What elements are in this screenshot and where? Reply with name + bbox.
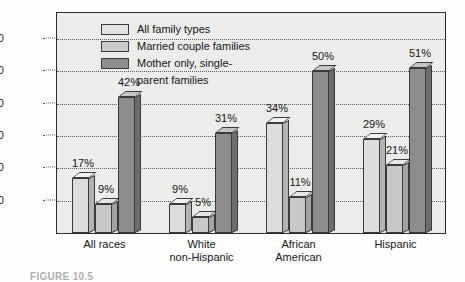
bar-value-label: 29% (354, 118, 394, 130)
x-axis-category-label: All races (50, 238, 160, 251)
bar-front-face (386, 165, 403, 233)
legend-label-continuation: parent families (137, 74, 250, 87)
bar-side-face (426, 65, 432, 233)
bar-front-face (312, 71, 329, 233)
bar-front-face (95, 204, 112, 233)
bar-side-face (232, 130, 238, 233)
x-axis-label-line1: Hispanic (374, 238, 416, 250)
bar: 21% (386, 165, 403, 233)
bar-value-label: 9% (160, 183, 200, 195)
plot-area: 17%9%42%9%5%31%34%11%50%29%21%51% All fa… (56, 12, 446, 234)
bar: 5% (192, 217, 209, 233)
bar-front-face (409, 68, 426, 233)
bar-value-label: 34% (257, 102, 297, 114)
x-axis-labels: All racesWhitenon-HispanicAfricanAmerica… (56, 238, 446, 272)
legend-swatch-icon (101, 24, 129, 35)
legend-swatch-icon (101, 58, 129, 69)
bar-value-label: 50% (303, 50, 343, 62)
bar: 31% (215, 133, 232, 233)
y-axis-tick-mark (43, 167, 55, 168)
x-axis-category-label: AfricanAmerican (244, 238, 354, 264)
y-axis-tick-label: 40 (0, 97, 4, 109)
legend-item-mother-only-families: Mother only, single- (101, 57, 250, 72)
legend-label: Married couple families (137, 40, 250, 53)
x-axis-label-line1: White (187, 238, 215, 250)
legend-item-married-couple-families: Married couple families (101, 40, 250, 55)
y-axis-tick-mark (43, 102, 55, 103)
x-axis-label-line1: African (281, 238, 315, 250)
bar-front-face (192, 217, 209, 233)
y-axis-tick-label: 30 (0, 129, 4, 141)
bar: 9% (169, 204, 186, 233)
y-axis-tick-mark (43, 199, 55, 200)
legend-item-all-family-types: All family types (101, 23, 250, 38)
y-axis-tick-mark (43, 70, 55, 71)
bar-front-face (289, 197, 306, 233)
x-axis-category-label: Hispanic (341, 238, 451, 251)
x-axis-label-line2: American (244, 251, 354, 264)
legend-label: All family types (137, 23, 210, 36)
legend-label: Mother only, single- (137, 57, 232, 70)
y-axis-tick-mark (43, 134, 55, 135)
y-axis-tick-label: 20 (0, 161, 4, 173)
bar: 42% (118, 97, 135, 233)
bar-value-label: 17% (63, 157, 103, 169)
bar-value-label: 51% (400, 47, 440, 59)
y-axis-tick-label: 60 (0, 32, 4, 44)
bar-front-face (169, 204, 186, 233)
bar: 51% (409, 68, 426, 233)
y-axis-tick-label: 10 (0, 194, 4, 206)
x-axis-label-line1: All races (83, 238, 125, 250)
bar: 50% (312, 71, 329, 233)
bar-front-face (118, 97, 135, 233)
figure-caption: FIGURE 10.5 (30, 271, 93, 282)
chart-legend: All family types Married couple families… (101, 23, 250, 87)
x-axis-label-line2: non-Hispanic (147, 251, 257, 264)
x-axis-category-label: Whitenon-Hispanic (147, 238, 257, 264)
bar-value-label: 31% (206, 112, 246, 124)
y-axis-tick-mark (43, 37, 55, 38)
y-axis-tick-label: 50 (0, 64, 4, 76)
figure-container: n poverty 17%9%42%9%5%31%34%11%50%29%21%… (0, 0, 465, 282)
bar-side-face (135, 94, 141, 233)
legend-swatch-icon (101, 41, 129, 52)
bar-front-face (215, 133, 232, 233)
bar-side-face (329, 68, 335, 233)
bar: 11% (289, 197, 306, 233)
bar: 9% (95, 204, 112, 233)
